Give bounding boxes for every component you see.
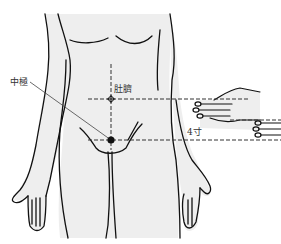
measurement-label: 4寸 [187,128,202,137]
torso-shape [45,14,180,238]
body-illustration [0,0,281,244]
navel-label: 肚臍 [114,85,132,94]
acupoint-label: 中極 [10,78,28,87]
acupoint-diagram: 中極 肚臍 4寸 [0,0,281,244]
zhongji-point [107,136,114,143]
left-arm-shape [14,14,65,231]
measuring-hand [193,88,281,137]
